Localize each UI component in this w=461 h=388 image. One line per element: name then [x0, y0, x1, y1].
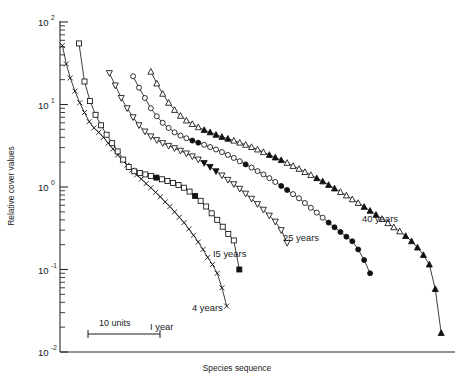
- y-tick-label-base: 10: [38, 265, 49, 276]
- series-40-years: [148, 68, 444, 335]
- data-point-marker: [362, 258, 367, 263]
- data-point-marker: [124, 106, 130, 112]
- series-label-25-years: 25 years: [283, 232, 319, 243]
- y-tick-label: 102: [38, 14, 55, 28]
- data-point-marker: [343, 192, 349, 198]
- series-label-40-years: 40 years: [362, 213, 398, 224]
- data-point-marker: [196, 240, 201, 245]
- data-point-marker: [214, 147, 219, 152]
- series-label-15-years: I5 years: [213, 248, 247, 259]
- series-4-years: [76, 41, 241, 272]
- data-point-marker: [148, 68, 154, 74]
- data-point-marker: [279, 183, 284, 188]
- data-point-marker: [337, 189, 343, 195]
- data-point-marker: [198, 198, 203, 203]
- data-point-marker: [99, 123, 104, 128]
- data-point-marker: [160, 120, 165, 125]
- data-point-marker: [302, 200, 307, 205]
- data-point-marker: [237, 159, 242, 164]
- data-point-marker: [115, 149, 120, 154]
- data-point-marker: [225, 177, 231, 183]
- data-point-marker: [267, 176, 272, 181]
- data-point-marker: [153, 190, 158, 195]
- data-point-marker: [158, 194, 163, 199]
- data-point-marker: [314, 210, 319, 215]
- y-tick-labels: 10210110010-110-2: [38, 14, 57, 358]
- data-point-marker: [142, 95, 147, 100]
- data-point-marker: [154, 138, 160, 144]
- data-point-marker: [219, 150, 224, 155]
- data-point-marker: [106, 71, 112, 77]
- data-point-marker: [350, 239, 355, 244]
- data-point-marker: [403, 233, 409, 239]
- data-point-marker: [296, 166, 302, 172]
- data-point-marker: [213, 132, 219, 138]
- data-point-marker: [186, 226, 191, 231]
- data-point-marker: [243, 162, 248, 167]
- data-point-marker: [332, 225, 337, 230]
- data-point-marker: [96, 130, 101, 135]
- data-point-marker: [202, 142, 207, 147]
- data-point-marker: [201, 127, 207, 133]
- data-point-marker: [178, 133, 183, 138]
- data-point-marker: [182, 220, 187, 225]
- data-point-marker: [320, 178, 326, 184]
- series-line: [133, 76, 370, 273]
- data-point-marker: [314, 175, 320, 181]
- data-point-marker: [189, 121, 195, 127]
- data-point-marker: [231, 182, 237, 188]
- data-point-marker: [397, 228, 403, 234]
- data-point-marker: [210, 262, 215, 267]
- data-point-marker: [172, 130, 177, 135]
- data-point-marker: [148, 134, 154, 140]
- data-point-marker: [231, 155, 236, 160]
- data-point-marker: [255, 169, 260, 174]
- data-point-marker: [391, 224, 397, 230]
- data-point-marker: [121, 157, 126, 162]
- scale-bar-label: 10 units: [99, 318, 131, 328]
- data-point-marker: [104, 132, 109, 137]
- series-label-1-year: I year: [150, 321, 173, 332]
- data-point-marker: [82, 110, 87, 115]
- data-point-marker: [326, 182, 332, 188]
- y-tick-label-base: 10: [38, 100, 49, 111]
- data-point-marker: [200, 247, 205, 252]
- data-point-marker: [110, 141, 115, 146]
- data-point-marker: [137, 170, 142, 175]
- y-tick-label-exponent: 2: [51, 14, 55, 21]
- data-point-marker: [278, 157, 284, 163]
- data-point-marker: [87, 119, 92, 124]
- y-tick-label: 10-2: [38, 344, 57, 358]
- data-point-marker: [255, 146, 261, 152]
- series-line: [151, 72, 441, 333]
- data-point-marker: [208, 145, 213, 150]
- data-point-marker: [355, 200, 361, 206]
- data-point-marker: [68, 75, 73, 80]
- data-point-marker: [148, 106, 153, 111]
- data-point-marker: [266, 152, 272, 158]
- data-point-marker: [177, 148, 183, 154]
- data-point-marker: [224, 304, 229, 309]
- data-point-marker: [143, 172, 148, 177]
- x-axis-label: Species sequence: [203, 363, 272, 373]
- y-tick-label: 101: [38, 97, 55, 111]
- data-point-marker: [118, 95, 124, 101]
- data-point-marker: [291, 192, 296, 197]
- data-point-marker: [195, 157, 201, 163]
- series-line: [79, 43, 239, 269]
- data-point-marker: [326, 220, 331, 225]
- data-point-marker: [163, 199, 168, 204]
- chart-svg: 10210110010-110-2 I year4 yearsI5 years2…: [0, 0, 461, 388]
- data-point-marker: [154, 175, 159, 180]
- data-point-marker: [126, 164, 131, 169]
- data-point-marker: [177, 215, 182, 220]
- data-point-marker: [183, 117, 189, 123]
- data-point-marker: [132, 169, 137, 174]
- data-point-marker: [272, 154, 278, 160]
- data-point-marker: [273, 179, 278, 184]
- data-point-marker: [237, 186, 243, 192]
- data-point-marker: [349, 196, 355, 202]
- data-point-marker: [261, 172, 266, 177]
- data-point-marker: [226, 231, 231, 236]
- data-point-marker: [213, 169, 219, 175]
